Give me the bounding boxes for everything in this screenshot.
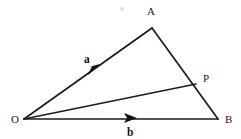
label-vector-a: a	[84, 53, 90, 65]
arrowhead-vector-b	[124, 113, 137, 123]
scan-speck	[120, 7, 124, 11]
label-vector-b: b	[127, 126, 133, 138]
label-vertex-a: A	[147, 5, 155, 17]
vector-diagram-canvas: O A B P a b	[0, 0, 241, 139]
vector-diagram-figure: O A B P a b	[0, 0, 241, 139]
label-vertex-o: O	[11, 113, 19, 125]
label-vertex-b: B	[225, 113, 232, 125]
label-point-p: P	[203, 72, 209, 84]
